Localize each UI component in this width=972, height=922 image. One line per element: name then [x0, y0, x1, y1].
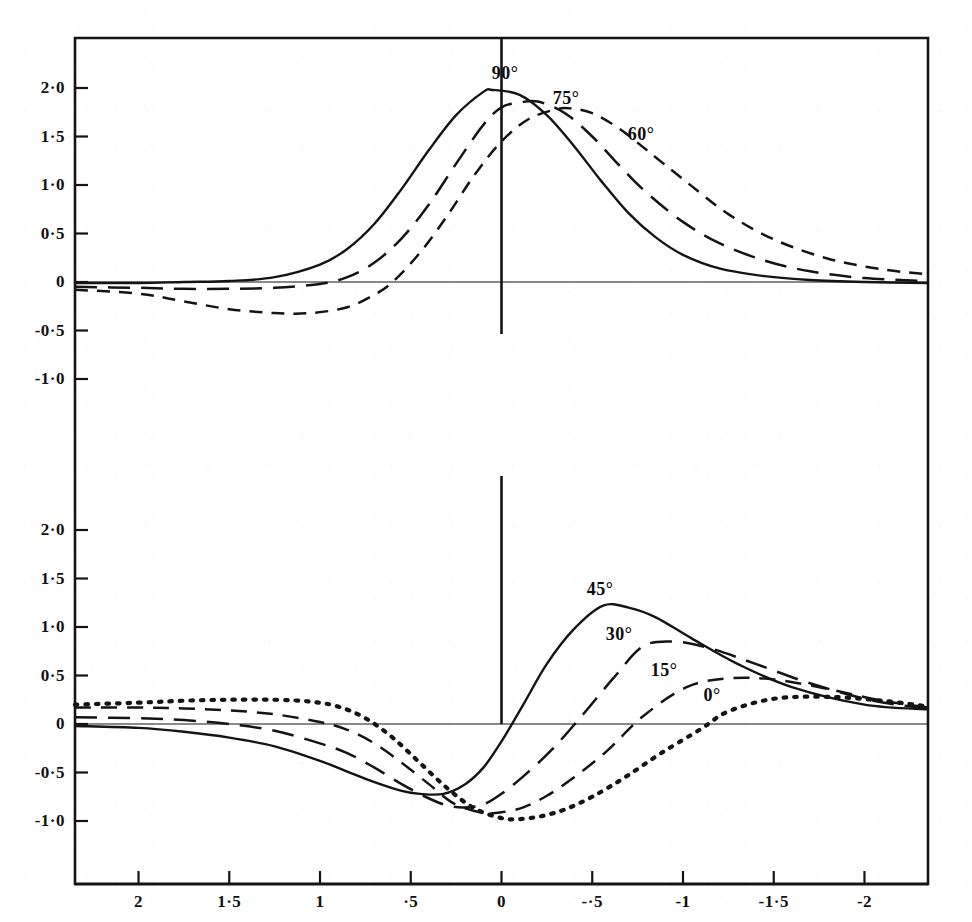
curve-label-15deg: 15°: [651, 660, 678, 681]
y-tick-label: 1·0: [41, 617, 65, 637]
y-tick-label: -0·5: [35, 321, 65, 341]
y-tick-label: 1·5: [41, 569, 65, 589]
x-tick-label: 1: [316, 892, 325, 912]
chart-figure: 21·51·50-·5-1-1·5-22·01·51·00·50-0·5-1·0…: [0, 0, 972, 922]
y-tick-label: 2·0: [41, 78, 65, 98]
chart-background: [0, 0, 972, 922]
x-tick-label: 1·5: [217, 892, 241, 912]
x-tick-label: -1·5: [759, 892, 789, 912]
curve-label-0deg: 0°: [703, 685, 720, 706]
y-tick-label: 0: [56, 272, 65, 292]
x-tick-label: 2: [134, 892, 143, 912]
y-tick-label: 2·0: [41, 520, 65, 540]
y-tick-label: 1·0: [41, 175, 65, 195]
y-tick-label: -1·0: [35, 369, 65, 389]
y-tick-label: -0·5: [35, 763, 65, 783]
y-tick-label: 0·5: [41, 224, 65, 244]
curve-label-30deg: 30°: [606, 624, 633, 645]
y-tick-label: 0: [56, 714, 65, 734]
x-tick-label: -·5: [582, 892, 603, 912]
curve-label-45deg: 45°: [587, 579, 614, 600]
chart-canvas: [0, 0, 972, 922]
x-tick-label: 0: [497, 892, 506, 912]
x-tick-label: -2: [857, 892, 872, 912]
x-tick-label: ·5: [403, 892, 418, 912]
curve-label-75deg: 75°: [553, 88, 580, 109]
y-tick-label: 0·5: [41, 666, 65, 686]
curve-label-60deg: 60°: [628, 124, 655, 145]
x-tick-label: -1: [675, 892, 690, 912]
curve-label-90deg: 90°: [492, 63, 519, 84]
y-tick-label: 1·5: [41, 127, 65, 147]
y-tick-label: -1·0: [35, 811, 65, 831]
